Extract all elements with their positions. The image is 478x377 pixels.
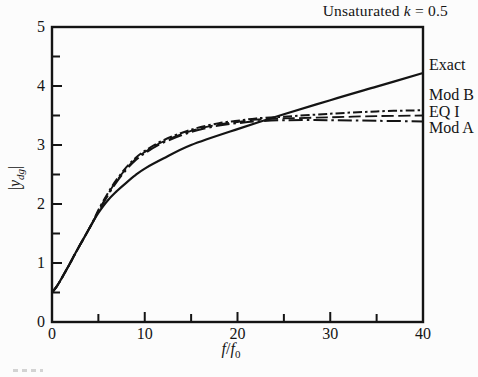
legend-label-mod-b: Mod B [429, 86, 474, 104]
series-exact [52, 73, 423, 293]
legend-label-mod-a: Mod A [429, 119, 474, 137]
y-tick-label: 1 [37, 254, 45, 271]
x-label-subscript: 0 [235, 348, 241, 360]
series-mod-a [52, 120, 423, 292]
chart-canvas: 010203040012345 [0, 0, 478, 377]
y-label-open-bar: | [6, 187, 23, 190]
y-tick-label: 5 [37, 18, 45, 35]
y-axis-label: |ydg| [6, 148, 28, 208]
cropped-caption-fragment [13, 369, 43, 372]
x-axis-label: f/f0 [196, 340, 266, 360]
y-label-subscript: dg [14, 169, 26, 180]
y-tick-label: 2 [37, 195, 45, 212]
y-tick-label: 3 [37, 136, 45, 153]
figure-page: Unsaturated k = 0.5 010203040012345 |ydg… [0, 0, 478, 377]
y-label-close-bar: | [6, 166, 23, 169]
x-tick-label: 40 [415, 325, 431, 342]
legend-label-exact: Exact [429, 56, 465, 74]
series-eq-i [52, 116, 423, 293]
y-label-variable: y [6, 180, 23, 187]
plot-frame [52, 27, 423, 322]
x-tick-label: 10 [137, 325, 153, 342]
x-tick-label: 0 [48, 325, 56, 342]
y-tick-label: 4 [37, 77, 45, 94]
y-tick-label: 0 [37, 313, 45, 330]
x-tick-label: 30 [322, 325, 338, 342]
